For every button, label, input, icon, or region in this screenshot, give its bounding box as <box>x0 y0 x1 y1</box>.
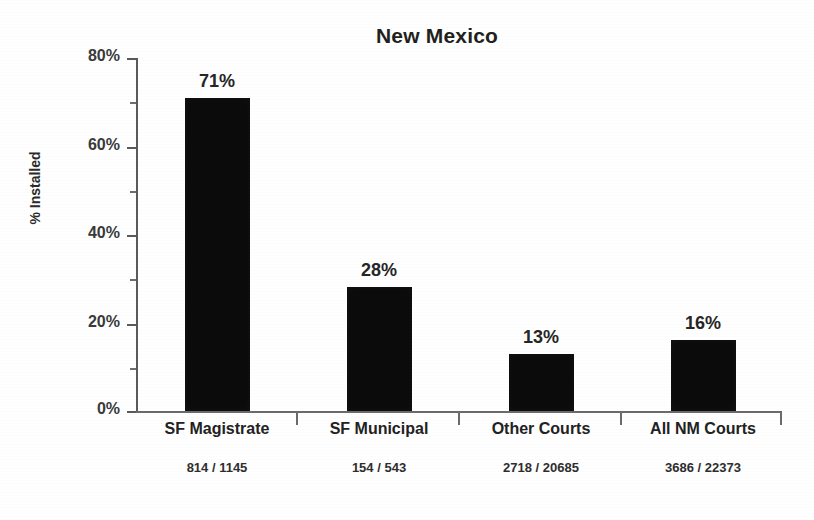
category-label-all-nm-courts: All NM Courts <box>622 420 784 438</box>
category-label-sf-magistrate: SF Magistrate <box>136 420 298 438</box>
y-tick-label-0: 0% <box>60 400 120 418</box>
y-tick-20: 20% <box>127 324 136 326</box>
sub-label-row: 814 / 1145 154 / 543 2718 / 20685 3686 /… <box>136 460 782 488</box>
y-tick-0: 0% <box>127 411 136 413</box>
y-tick-label-20: 20% <box>60 313 120 331</box>
category-label-row: SF Magistrate SF Municipal Other Courts … <box>136 420 782 448</box>
bar-value-sf-magistrate: 71% <box>136 71 298 92</box>
bar-value-all-nm-courts: 16% <box>622 313 784 334</box>
bar-group-3: 16% <box>622 57 784 411</box>
y-axis-title: % Installed <box>27 108 43 268</box>
chart-title: New Mexico <box>0 24 814 48</box>
bar-other-courts[interactable] <box>509 354 574 411</box>
sub-label-other-courts: 2718 / 20685 <box>460 460 622 475</box>
bar-sf-magistrate[interactable] <box>185 98 250 411</box>
bar-value-sf-municipal: 28% <box>298 260 460 281</box>
bar-sf-municipal[interactable] <box>347 287 412 411</box>
category-label-other-courts: Other Courts <box>460 420 622 438</box>
y-tick-80: 80% <box>127 58 136 60</box>
y-tick-60: 60% <box>127 147 136 149</box>
sub-label-sf-magistrate: 814 / 1145 <box>136 460 298 475</box>
category-label-sf-municipal: SF Municipal <box>298 420 460 438</box>
plot-area: 80% 60% 40% 20% 0% 71% 28% <box>136 58 782 412</box>
y-tick-label-80: 80% <box>60 47 120 65</box>
bar-value-other-courts: 13% <box>460 327 622 348</box>
y-tick-label-40: 40% <box>60 224 120 242</box>
sub-label-all-nm-courts: 3686 / 22373 <box>622 460 784 475</box>
bar-all-nm-courts[interactable] <box>671 340 736 411</box>
sub-label-sf-municipal: 154 / 543 <box>298 460 460 475</box>
bar-group-1: 28% <box>298 57 460 411</box>
bar-group-2: 13% <box>460 57 622 411</box>
chart-page: New Mexico % Installed 80% 60% 40% 20% 0… <box>0 0 814 520</box>
bar-group-0: 71% <box>136 57 298 411</box>
y-tick-40: 40% <box>127 235 136 237</box>
y-tick-label-60: 60% <box>60 136 120 154</box>
